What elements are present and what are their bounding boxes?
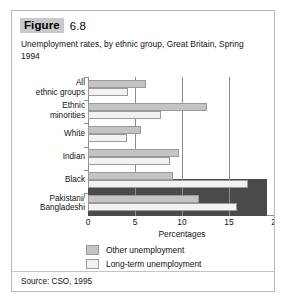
chart-plot-area [88, 77, 275, 216]
chart-bar [88, 80, 146, 88]
value-axis-tick-labels: 05101520 [88, 217, 275, 229]
legend-swatch-longterm-icon [86, 259, 99, 269]
chart-bar [88, 111, 161, 119]
value-axis-tick: 20 [271, 217, 275, 227]
category-label: Pakistani/Bangladeshi [13, 194, 85, 213]
figure-card: Figure 6.8 Unemployment rates, by ethnic… [11, 10, 275, 292]
category-axis-labels: Allethnic groupsEthnicminoritiesWhiteInd… [12, 77, 85, 216]
figure-number: 6.8 [70, 20, 86, 32]
source-note: Source: CSO, 1995 [21, 277, 92, 286]
chart-bar [88, 126, 141, 134]
legend-item-longterm: Long-term unemployment [86, 259, 201, 269]
chart-bar [88, 172, 173, 180]
value-axis-title: Percentages [88, 229, 275, 239]
chart-bar [88, 88, 128, 96]
value-axis-tick: 5 [133, 217, 138, 227]
chart-bar [88, 203, 237, 211]
chart-gridline [229, 77, 230, 216]
category-label: Ethnicminorities [13, 101, 85, 120]
chart-bar [88, 157, 170, 165]
legend-item-other: Other unemployment [86, 245, 201, 255]
chart-bar [88, 103, 207, 111]
value-axis-tick: 10 [177, 217, 186, 227]
figure-header: Figure 6.8 [20, 18, 86, 33]
legend-swatch-other-icon [86, 245, 99, 255]
legend-label-longterm: Long-term unemployment [106, 259, 201, 269]
source-divider [12, 271, 274, 272]
category-label: Allethnic groups [13, 78, 85, 97]
chart-bar [88, 149, 179, 157]
category-label: Black [13, 175, 85, 185]
category-label: White [13, 129, 85, 139]
chart-bar [88, 195, 199, 203]
category-label: Indian [13, 152, 85, 162]
figure-tag-label: Figure [20, 18, 64, 33]
chart-bar [88, 134, 127, 142]
chart-bar [88, 180, 248, 188]
value-axis-tick: 15 [224, 217, 233, 227]
chart-legend: Other unemployment Long-term unemploymen… [86, 245, 201, 273]
value-axis-tick: 0 [86, 217, 91, 227]
figure-caption: Unemployment rates, by ethnic group, Gre… [21, 39, 261, 62]
legend-label-other: Other unemployment [106, 245, 184, 255]
